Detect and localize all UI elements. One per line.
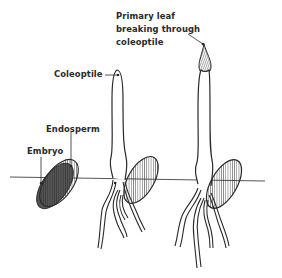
- coleoptile-shape-2: [195, 70, 212, 186]
- label-primary-leaf-line2: breaking through: [116, 24, 200, 34]
- primary-leaf-shape: [199, 44, 211, 72]
- label-embryo: Embryo: [27, 146, 63, 156]
- label-primary-leaf-line3: coleoptile: [116, 37, 163, 47]
- seed-stage: [29, 132, 86, 215]
- label-coleoptile: Coleoptile: [54, 69, 103, 79]
- label-endosperm: Endosperm: [46, 124, 100, 134]
- germination-diagram: Endosperm Embryo Coleoptile Primary leaf…: [0, 0, 282, 278]
- primary-leaf-stage: [175, 34, 249, 268]
- label-primary-leaf-line1: Primary leaf: [116, 11, 175, 21]
- coleoptile-stage: [98, 70, 165, 249]
- coleoptile-shape: [110, 70, 127, 180]
